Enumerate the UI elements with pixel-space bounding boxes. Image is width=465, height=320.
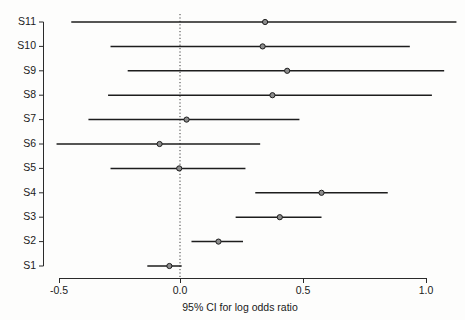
- point-estimate-marker: [270, 93, 275, 98]
- point-estimate-marker: [184, 117, 189, 122]
- y-tick-label-s8: S8: [23, 88, 36, 100]
- point-estimate-marker: [285, 68, 290, 73]
- ci-row: [128, 68, 444, 73]
- point-estimate-marker: [216, 239, 221, 244]
- x-tick-label-neg-0-5: -0.5: [50, 284, 68, 296]
- x-axis-title: 95% CI for log odds ratio: [182, 301, 298, 313]
- y-axis: S11 S10 S9 S8 S7 S6 S5 S4 S3 S2 S1: [17, 15, 43, 271]
- ci-row: [255, 190, 387, 195]
- ci-row: [57, 141, 261, 146]
- forest-plot-figure: S11 S10 S9 S8 S7 S6 S5 S4 S3 S2 S1 -0.5: [0, 0, 465, 320]
- point-estimate-marker: [277, 215, 282, 220]
- y-tick-label-s6: S6: [23, 137, 36, 149]
- point-estimate-marker: [157, 141, 162, 146]
- y-tick-label-s7: S7: [23, 112, 36, 124]
- point-estimate-marker: [260, 44, 265, 49]
- x-tick-marks: [60, 279, 427, 284]
- y-tick-label-s4: S4: [23, 186, 36, 198]
- point-estimate-marker: [167, 263, 172, 268]
- ci-row: [236, 215, 322, 220]
- ci-row: [191, 239, 243, 244]
- y-tick-label-s5: S5: [23, 161, 36, 173]
- point-estimate-marker: [262, 19, 267, 24]
- x-tick-label-0-5: 0.5: [296, 284, 311, 296]
- forest-plot-canvas: S11 S10 S9 S8 S7 S6 S5 S4 S3 S2 S1 -0.5: [0, 0, 465, 320]
- y-tick-label-s11: S11: [18, 15, 36, 27]
- x-axis: -0.5 0.0 0.5 1.0 95% CI for log odds rat…: [50, 279, 433, 314]
- x-tick-label-1-0: 1.0: [419, 284, 434, 296]
- ci-row: [71, 19, 456, 24]
- y-tick-label-s1: S1: [23, 259, 36, 271]
- ci-row: [111, 44, 410, 49]
- y-tick-label-s3: S3: [23, 210, 36, 222]
- ci-series-layer: [57, 19, 457, 268]
- y-tick-label-s2: S2: [23, 234, 36, 246]
- point-estimate-marker: [177, 166, 182, 171]
- point-estimate-marker: [319, 190, 324, 195]
- y-tick-marks: [39, 22, 44, 266]
- y-tick-label-s9: S9: [23, 64, 36, 76]
- ci-row: [111, 166, 246, 171]
- y-tick-label-s10: S10: [17, 39, 36, 51]
- ci-row: [108, 93, 432, 98]
- ci-row: [88, 117, 299, 122]
- ci-row: [147, 263, 181, 268]
- x-tick-label-0-0: 0.0: [173, 284, 188, 296]
